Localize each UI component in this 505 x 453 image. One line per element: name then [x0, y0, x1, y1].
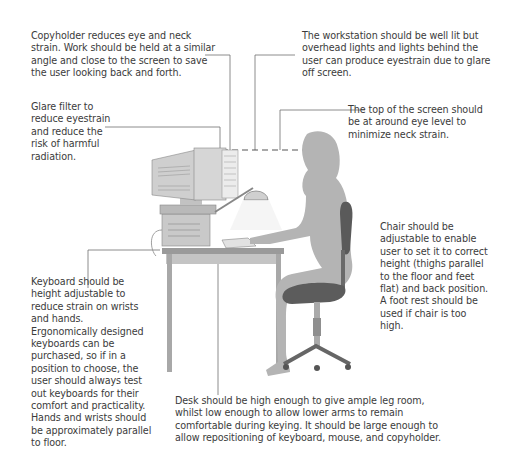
annotation-desk: Desk should be high enough to give ample…	[175, 395, 441, 445]
leader-glare-filter	[105, 127, 220, 150]
annotation-lighting: The workstation should be well lit but o…	[302, 30, 490, 80]
annotation-glare-filter: Glare filter to reduce eyestrain and red…	[31, 101, 110, 163]
annotation-screen-height: The top of the screen should be at aroun…	[348, 104, 483, 141]
annotation-chair: Chair should be adjustable to enable use…	[380, 221, 488, 333]
annotation-keyboard: Keyboard should be height adjustable to …	[31, 276, 151, 450]
leader-lighting	[255, 55, 295, 150]
desk	[162, 248, 284, 372]
annotation-copyholder: Copyholder reduces eye and neck strain. …	[31, 30, 215, 80]
